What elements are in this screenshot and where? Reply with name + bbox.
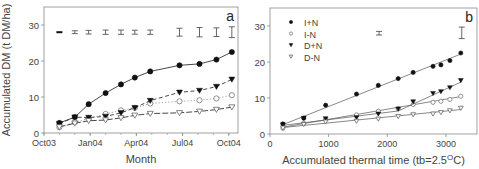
y-axis-label: Accumulated DM (t DM/ha) (0, 4, 12, 137)
y-tick-label: 30 (254, 21, 265, 32)
marker-filled-circle (376, 83, 380, 87)
y-tick-label: 20 (254, 57, 265, 68)
x-tick-label: 2000 (377, 139, 397, 149)
marker-open-circle (197, 98, 202, 103)
x-tick-label: Jul04 (172, 138, 194, 148)
x-axis-label: Accumulated thermal time (tb=2.5OC) (282, 153, 465, 166)
error-bar (176, 28, 182, 36)
marker-open-circle (431, 100, 435, 104)
series-dplusn (280, 79, 463, 127)
x-tick-label: Oct03 (32, 138, 56, 148)
marker-filled-circle (103, 90, 108, 95)
x-tick-label: 1000 (319, 139, 339, 149)
error-bar (147, 30, 153, 34)
marker-filled-circle (148, 69, 153, 74)
marker-filled-circle (354, 92, 358, 96)
series-dminusn (280, 106, 463, 130)
marker-open-circle (229, 93, 234, 98)
legend-item: I+N (289, 18, 318, 28)
figure: 0102030Oct03Jan04Apr04Jul04Oct04MonthAcc… (0, 0, 479, 169)
marker-open-circle (289, 32, 292, 35)
marker-filled-circle (118, 82, 123, 87)
series-dminusn (56, 105, 234, 130)
legend-label: I+N (304, 18, 318, 28)
marker-open-triangle (289, 55, 293, 58)
marker-filled-triangle (229, 77, 235, 82)
x-tick-label: Jan04 (78, 138, 103, 148)
x-tick-label: 0 (267, 139, 272, 149)
marker-filled-circle (86, 102, 91, 107)
marker-open-triangle (396, 115, 401, 119)
marker-filled-circle (448, 58, 452, 62)
error-bar (213, 28, 219, 37)
legend: I+NI-ND+ND-N (289, 18, 322, 63)
marker-open-triangle (354, 119, 359, 123)
x-tick-label: Oct04 (217, 138, 241, 148)
marker-filled-triangle (177, 90, 183, 95)
panel-b-thermal-time-chart: 01020300100020003000Accumulated thermal … (254, 8, 477, 166)
marker-open-circle (439, 99, 443, 103)
marker-filled-triangle (458, 79, 463, 83)
marker-open-circle (459, 94, 463, 98)
error-bar (72, 31, 78, 34)
panel-label: a (226, 8, 234, 24)
panel-label: b (465, 9, 473, 25)
y-tick-label: 0 (260, 129, 265, 140)
marker-filled-circle (177, 63, 182, 68)
error-bar (376, 31, 382, 35)
marker-filled-circle (214, 57, 219, 62)
error-bar (132, 30, 138, 34)
marker-filled-circle (197, 61, 202, 66)
error-bar (459, 27, 465, 39)
chart-canvas: 0102030Oct03Jan04Apr04Jul04Oct04MonthAcc… (0, 0, 479, 169)
series-iplusn (57, 49, 235, 125)
y-tick-label: 10 (254, 93, 265, 104)
marker-filled-triangle (376, 112, 381, 116)
panel-a-month-chart: 0102030Oct03Jan04Apr04Jul04Oct04MonthAcc… (0, 4, 241, 165)
error-bar (86, 30, 92, 34)
marker-open-circle (448, 97, 452, 101)
legend-label: D+N (304, 41, 322, 51)
marker-filled-circle (459, 51, 463, 55)
marker-filled-circle (411, 70, 415, 74)
legend-label: D-N (304, 53, 320, 63)
x-tick-label: Apr04 (124, 138, 148, 148)
marker-open-triangle (376, 117, 381, 121)
marker-filled-triangle (431, 92, 436, 96)
error-bar (103, 30, 109, 34)
legend-item: I-N (289, 30, 316, 40)
marker-filled-triangle (289, 44, 293, 47)
y-tick-label: 10 (28, 92, 39, 103)
legend-item: D+N (289, 41, 322, 51)
legend-item: D-N (289, 53, 320, 63)
marker-filled-circle (289, 20, 292, 23)
marker-filled-triangle (213, 84, 219, 89)
error-bar (229, 27, 235, 38)
error-bar (118, 30, 124, 34)
plot-frame (44, 7, 238, 133)
series-line (59, 95, 231, 127)
marker-filled-circle (439, 63, 443, 67)
marker-open-circle (177, 99, 182, 104)
y-tick-label: 0 (34, 128, 39, 139)
marker-open-triangle (439, 111, 444, 115)
plot-frame (270, 8, 477, 134)
series-line (59, 107, 231, 127)
x-tick-label: 3000 (436, 139, 456, 149)
legend-label: I-N (304, 30, 316, 40)
x-axis-label: Month (126, 153, 157, 165)
series-line (59, 52, 231, 123)
series-iminusn (57, 93, 235, 130)
series-dplusn (56, 77, 234, 126)
marker-filled-circle (431, 64, 435, 68)
y-tick-label: 30 (28, 20, 39, 31)
series-line (59, 79, 231, 123)
marker-filled-circle (132, 75, 137, 80)
marker-filled-circle (396, 76, 400, 80)
marker-filled-circle (229, 49, 234, 54)
y-tick-label: 20 (28, 56, 39, 67)
marker-open-triangle (431, 112, 436, 116)
marker-filled-circle (324, 103, 328, 107)
error-bar (197, 28, 203, 37)
marker-open-circle (214, 96, 219, 101)
